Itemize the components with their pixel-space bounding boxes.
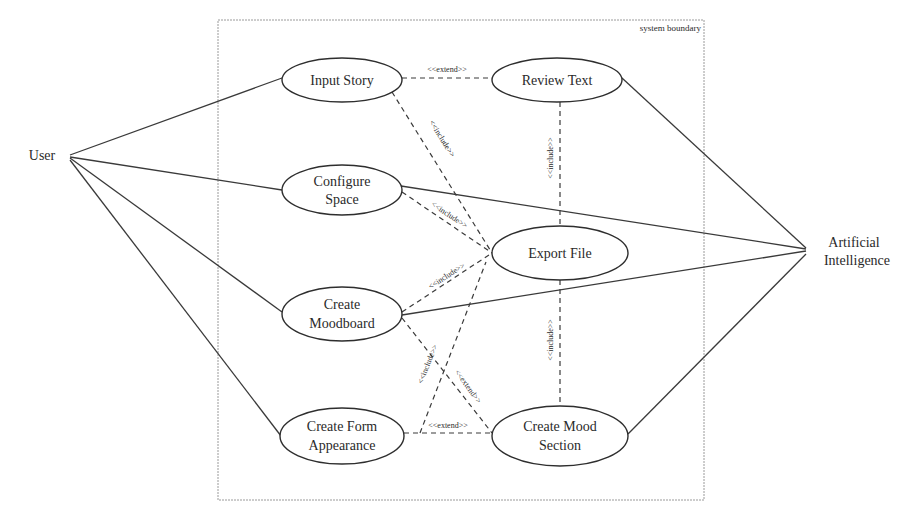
use-case-create-form-appearance[interactable]: Create Form Appearance xyxy=(280,408,404,464)
use-case-label: Review Text xyxy=(522,73,593,88)
extend-label: <<extend>> xyxy=(428,421,468,430)
extend-create-moodboard-create-mood-section xyxy=(402,318,492,433)
assoc-user-create-moodboard xyxy=(70,158,282,312)
use-case-label: Section xyxy=(539,438,581,453)
use-case-label: Moodboard xyxy=(309,316,374,331)
use-case-review-text[interactable]: Review Text xyxy=(492,58,622,102)
include-label: <<include>> xyxy=(427,261,467,291)
use-case-label: Space xyxy=(325,192,358,207)
use-case-export-file[interactable]: Export File xyxy=(492,226,628,280)
extend-label: <<extend>> xyxy=(427,65,467,74)
assoc-user-input-story xyxy=(70,78,282,155)
actor-artificial-intelligence[interactable]: Artificial Intelligence xyxy=(824,235,890,268)
use-case-ellipse xyxy=(492,406,628,466)
use-case-label: Appearance xyxy=(309,438,376,453)
use-case-label: Configure xyxy=(314,174,371,189)
include-label: <<include>> xyxy=(416,343,440,385)
extend-label: <<extend>> xyxy=(453,368,484,406)
use-case-ellipse xyxy=(282,165,402,215)
use-case-label: Input Story xyxy=(310,73,373,88)
actor-label: Intelligence xyxy=(824,253,890,268)
assoc-user-create-form-appearance xyxy=(70,160,281,436)
include-label: <<include>> xyxy=(427,119,457,159)
assoc-user-configure-space xyxy=(70,157,282,190)
use-case-label: Create Mood xyxy=(523,419,596,434)
system-boundary-label: system boundary xyxy=(640,23,702,33)
actor-user[interactable]: User xyxy=(29,148,56,163)
include-input-story-export-file xyxy=(392,92,492,253)
use-case-ellipse xyxy=(280,408,404,464)
use-case-create-moodboard[interactable]: Create Moodboard xyxy=(282,287,402,341)
user-associations xyxy=(70,78,282,436)
assoc-ai-review-text xyxy=(622,78,806,248)
use-case-label: Create xyxy=(324,297,361,312)
use-case-create-mood-section[interactable]: Create Mood Section xyxy=(492,406,628,466)
actor-label: Artificial xyxy=(828,235,879,250)
use-case-label: Export File xyxy=(528,246,591,261)
use-case-ellipse xyxy=(282,287,402,341)
use-case-label: Create Form xyxy=(307,419,377,434)
use-case-input-story[interactable]: Input Story xyxy=(282,58,402,102)
include-configure-space-export-file xyxy=(402,192,492,253)
assoc-ai-create-mood-section xyxy=(628,254,806,434)
use-case-diagram: system boundary <<extend>> <<include>> <… xyxy=(0,0,907,522)
include-label: <<include>> xyxy=(546,137,555,179)
include-label: <<include>> xyxy=(546,319,555,361)
use-case-configure-space[interactable]: Configure Space xyxy=(282,165,402,215)
